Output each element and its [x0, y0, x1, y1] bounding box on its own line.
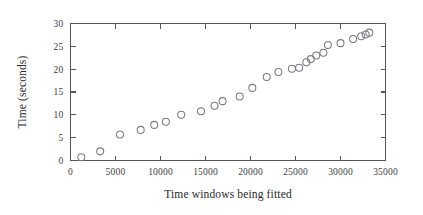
- x-axis-title: Time windows being fitted: [164, 188, 292, 201]
- x-tick-label-4: 20000: [238, 167, 263, 177]
- data-point: [219, 98, 226, 105]
- data-point: [324, 41, 331, 48]
- data-point: [288, 65, 295, 72]
- data-point: [296, 64, 303, 71]
- data-point: [263, 73, 270, 80]
- y-tick-label-5: 25: [54, 42, 64, 52]
- y-tick-label-1: 5: [59, 133, 64, 143]
- x-tick-label-0: 0: [68, 167, 73, 177]
- data-point: [211, 102, 218, 109]
- x-tick-label-1: 5000: [106, 167, 126, 177]
- data-point: [337, 40, 344, 47]
- data-point: [275, 68, 282, 75]
- data-point: [350, 36, 357, 43]
- data-point: [117, 131, 124, 138]
- data-point: [320, 49, 327, 56]
- data-point: [249, 84, 256, 91]
- y-axis-title: Time (seconds): [16, 56, 29, 129]
- plot-canvas: 0500010000150002000025000300003500005101…: [0, 0, 423, 215]
- data-point: [78, 154, 85, 161]
- data-point: [178, 111, 185, 118]
- plot-frame: [71, 24, 386, 161]
- x-tick-label-7: 35000: [373, 167, 398, 177]
- data-series: [78, 29, 373, 161]
- data-point: [198, 108, 205, 115]
- data-point: [97, 148, 104, 155]
- data-point: [137, 126, 144, 133]
- y-tick-label-6: 30: [54, 19, 64, 29]
- data-point: [151, 121, 158, 128]
- y-tick-label-3: 15: [54, 87, 64, 97]
- data-point: [358, 33, 365, 40]
- data-point: [162, 118, 169, 125]
- x-tick-label-3: 15000: [193, 167, 218, 177]
- y-tick-label-2: 10: [54, 110, 64, 120]
- x-tick-label-5: 25000: [283, 167, 308, 177]
- data-point: [236, 93, 243, 100]
- y-tick-label-4: 20: [54, 65, 64, 75]
- x-tick-label-2: 10000: [148, 167, 173, 177]
- x-tick-label-6: 30000: [328, 167, 353, 177]
- y-tick-label-0: 0: [59, 156, 64, 166]
- data-point: [313, 52, 320, 59]
- scatter-plot-figure: 0500010000150002000025000300003500005101…: [0, 0, 423, 215]
